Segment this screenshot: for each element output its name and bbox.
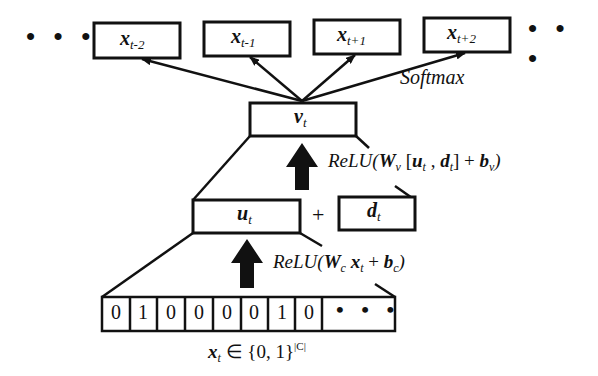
equation-u: ReLU(Wc xt + bc) xyxy=(273,251,405,276)
hidden-u-label: ut xyxy=(237,202,252,228)
output-label-t-1: xt-1 xyxy=(231,25,255,51)
plus-sign: + xyxy=(312,202,324,228)
input-cell: 0 xyxy=(185,301,213,324)
up-arrow-v xyxy=(286,143,318,190)
input-cell: 1 xyxy=(268,301,296,324)
input-caption: xt ∈ {0, 1}|C| xyxy=(208,340,306,366)
input-cell: 0 xyxy=(102,301,130,324)
input-cell: 0 xyxy=(157,301,185,324)
up-arrow-u xyxy=(231,239,263,288)
doc-vector-label: dt xyxy=(367,199,381,225)
hidden-v-label: vt xyxy=(294,105,307,131)
softmax-label: Softmax xyxy=(400,66,464,89)
right-ellipsis: • • • xyxy=(528,14,598,74)
equation-v: ReLU(Wv [ut , dt] + bv) xyxy=(328,150,501,175)
input-cell: 0 xyxy=(240,301,268,324)
left-ellipsis: • • • xyxy=(26,22,96,52)
input-cell: 0 xyxy=(295,301,323,324)
input-cell: 0 xyxy=(213,301,241,324)
output-label-t+1: xt+1 xyxy=(337,23,366,49)
input-cell: 1 xyxy=(129,301,157,324)
output-label-t+2: xt+2 xyxy=(447,21,476,47)
output-label-t-2: xt-2 xyxy=(120,27,144,53)
input-ellipsis: • • • xyxy=(336,297,400,323)
